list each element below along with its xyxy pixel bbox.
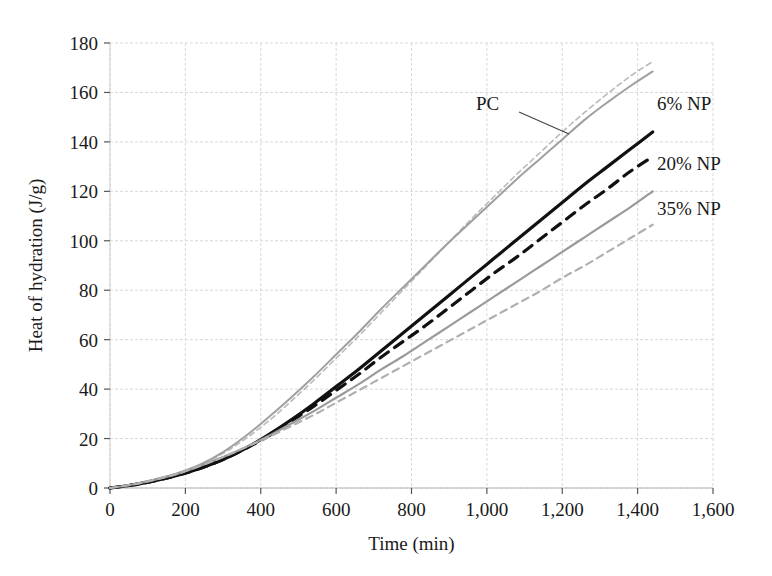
- y-tick-label: 140: [70, 132, 99, 153]
- series-line-6-np: [110, 71, 653, 488]
- series-label-20-np: 20% NP: [657, 153, 721, 174]
- y-tick-label: 160: [70, 82, 99, 103]
- y-tick-label: 0: [89, 478, 99, 499]
- series-group: [110, 62, 653, 488]
- series-line-pc: [110, 62, 653, 488]
- x-tick-label: 1,600: [692, 499, 735, 520]
- x-tick-label: 400: [247, 499, 276, 520]
- grid-lines: [110, 43, 713, 488]
- y-tick-label: 40: [79, 379, 98, 400]
- y-tick-label: 100: [70, 231, 99, 252]
- series-label-6-np: 6% NP: [657, 93, 711, 114]
- y-tick-label: 180: [70, 33, 99, 54]
- x-tick-label: 0: [105, 499, 115, 520]
- annotation-leader-line: [519, 112, 569, 134]
- y-tick-labels: 020406080100120140160180: [70, 33, 99, 499]
- axes: [104, 43, 713, 494]
- x-axis-title: Time (min): [368, 533, 454, 555]
- x-tick-label: 1,400: [616, 499, 659, 520]
- y-tick-label: 60: [79, 330, 98, 351]
- y-tick-label: 120: [70, 181, 99, 202]
- x-tick-labels: 02004006008001,0001,2001,4001,600: [105, 499, 734, 520]
- y-axis-title: Heat of hydration (J/g): [25, 179, 47, 353]
- series-label-pc: PC: [476, 93, 499, 114]
- x-tick-label: 800: [397, 499, 426, 520]
- chart-figure: 02040608010012014016018002004006008001,0…: [0, 0, 772, 576]
- y-tick-label: 80: [79, 280, 98, 301]
- x-tick-label: 200: [171, 499, 200, 520]
- x-tick-label: 1,000: [466, 499, 509, 520]
- y-tick-label: 20: [79, 429, 98, 450]
- series-label-35-np: 35% NP: [657, 198, 721, 219]
- series-annotations: PC6% NP20% NP35% NP: [476, 93, 721, 219]
- x-tick-label: 1,200: [541, 499, 584, 520]
- heat-of-hydration-line-chart: 02040608010012014016018002004006008001,0…: [0, 0, 772, 576]
- x-tick-label: 600: [322, 499, 351, 520]
